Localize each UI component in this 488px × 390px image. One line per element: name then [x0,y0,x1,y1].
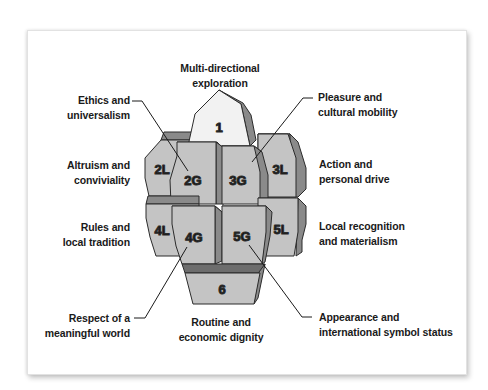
label-rules: Rules and local tradition [40,220,130,250]
label-local-recognition: Local recognition and materialism [319,219,429,249]
block-label-2G: 2G [184,173,201,188]
block-label-5G: 5G [233,229,250,244]
block-3G: 3G [222,146,268,204]
block-label-3L: 3L [272,162,287,177]
block-label-5L: 5L [273,222,288,237]
block-label-4L: 4L [154,223,169,238]
label-altruism: Altruism and conviviality [40,158,130,188]
block-1: 1 [188,90,256,146]
label-respect: Respect of a meaningful world [30,311,130,341]
block-4G: 4G [172,206,222,264]
connector-respect [134,247,187,318]
block-label-2L: 2L [154,162,169,177]
label-routine: Routine and economic dignity [176,315,266,345]
block-6: 6 [182,264,265,304]
label-multi-directional: Multi-directional exploration [176,61,264,91]
label-pleasure: Pleasure and cultural mobility [318,90,418,120]
block-5G: 5G [222,206,272,264]
block-label-1: 1 [215,120,222,135]
block-2G: 2G [170,142,224,204]
label-ethics: Ethics and universalism [50,93,130,123]
label-action: Action and personal drive [319,157,419,187]
block-label-3G: 3G [229,173,246,188]
label-appearance: Appearance and international symbol stat… [319,310,469,340]
block-label-4G: 4G [185,230,202,245]
block-label-6: 6 [218,282,225,297]
